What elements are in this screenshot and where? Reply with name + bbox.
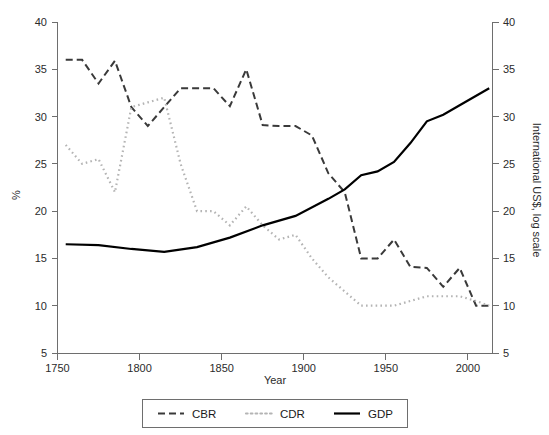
left-tick-label: 10 bbox=[35, 300, 47, 312]
left-axis: 510152025303540 % bbox=[10, 16, 58, 359]
right-tick-label: 15 bbox=[503, 252, 515, 264]
left-tick-label: 5 bbox=[41, 347, 47, 359]
left-tick-label: 30 bbox=[35, 111, 47, 123]
chart-figure: 510152025303540 % 510152025303540 Intern… bbox=[0, 0, 549, 435]
bottom-tick-label: 1950 bbox=[374, 362, 398, 374]
right-tick-label: 5 bbox=[503, 347, 509, 359]
bottom-tick-label: 1900 bbox=[291, 362, 315, 374]
right-axis-ticks: 510152025303540 bbox=[493, 16, 516, 359]
left-tick-label: 15 bbox=[35, 252, 47, 264]
left-axis-ticks: 510152025303540 bbox=[35, 16, 58, 359]
right-tick-label: 40 bbox=[503, 16, 515, 28]
series-line-cbr bbox=[66, 60, 490, 306]
legend-label-cdr: CDR bbox=[280, 408, 305, 420]
left-tick-label: 20 bbox=[35, 205, 47, 217]
legend-items: CBRCDRGDP bbox=[158, 408, 393, 420]
right-tick-label: 10 bbox=[503, 300, 515, 312]
bottom-tick-label: 2000 bbox=[456, 362, 480, 374]
right-tick-label: 25 bbox=[503, 158, 515, 170]
bottom-axis: 175018001850190019502000 Year bbox=[45, 354, 492, 387]
legend-label-cbr: CBR bbox=[192, 408, 216, 420]
bottom-tick-label: 1850 bbox=[209, 362, 233, 374]
right-axis-title: International US$, log scale bbox=[531, 123, 543, 258]
right-tick-label: 35 bbox=[503, 63, 515, 75]
left-axis-title: % bbox=[10, 190, 22, 200]
left-tick-label: 35 bbox=[35, 63, 47, 75]
bottom-axis-ticks: 175018001850190019502000 bbox=[45, 354, 480, 375]
series-line-cdr bbox=[66, 98, 490, 306]
bottom-axis-title: Year bbox=[264, 374, 287, 386]
left-tick-label: 25 bbox=[35, 158, 47, 170]
right-tick-label: 20 bbox=[503, 205, 515, 217]
right-axis: 510152025303540 International US$, log s… bbox=[493, 16, 544, 359]
data-series-group bbox=[66, 60, 490, 306]
bottom-tick-label: 1800 bbox=[127, 362, 151, 374]
right-tick-label: 30 bbox=[503, 111, 515, 123]
left-tick-label: 40 bbox=[35, 16, 47, 28]
line-chart-svg: 510152025303540 % 510152025303540 Intern… bbox=[0, 0, 549, 435]
chart-legend: CBRCDRGDP bbox=[143, 400, 408, 428]
legend-label-gdp: GDP bbox=[368, 408, 393, 420]
bottom-tick-label: 1750 bbox=[45, 362, 69, 374]
